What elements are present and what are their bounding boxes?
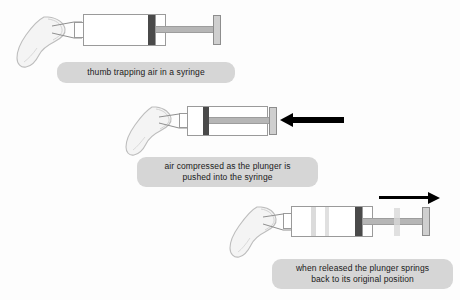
caption-line: back to its original position <box>311 274 414 285</box>
caption-line: pushed into the syringe <box>182 172 272 183</box>
arrow-shaft <box>292 117 344 123</box>
plunger-flange <box>213 15 221 45</box>
plunger-seal <box>148 15 155 45</box>
panel-2-caption: air compressed as the plunger is pushed … <box>137 157 318 187</box>
arrow-head-icon <box>428 192 440 204</box>
plunger-flange <box>422 207 430 236</box>
motion-blur-ghost <box>325 207 329 236</box>
figure-canvas: thumb trapping air in a syringe air comp… <box>0 0 460 300</box>
caption-line: when released the plunger springs <box>296 263 429 274</box>
plunger-rod <box>209 117 271 124</box>
plunger-seal <box>355 207 362 236</box>
caption-line: thumb trapping air in a syringe <box>87 67 204 78</box>
plunger-rod <box>156 26 215 33</box>
motion-blur-ghost <box>311 207 316 236</box>
panel-3-caption: when released the plunger springs back t… <box>272 259 453 289</box>
panel-1-caption: thumb trapping air in a syringe <box>57 62 235 83</box>
arrow-shaft <box>379 196 430 199</box>
plunger-flange <box>269 107 277 135</box>
caption-line: air compressed as the plunger is <box>164 161 290 172</box>
motion-blur-ghost <box>394 208 400 236</box>
